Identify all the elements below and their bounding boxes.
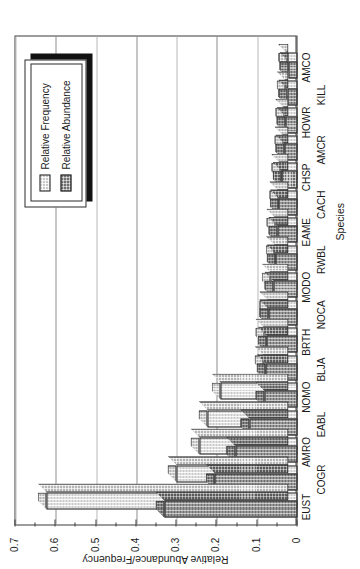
value-minor-tick <box>74 522 75 526</box>
value-tick <box>135 519 136 526</box>
category-label: NOMO <box>300 381 311 412</box>
value-minor-tick <box>236 522 237 526</box>
bar-side <box>167 456 288 465</box>
bar-side <box>266 208 288 217</box>
category-label: CACH <box>315 190 326 218</box>
bar-side <box>254 346 288 355</box>
value-axis-line <box>296 35 297 525</box>
bar-side <box>276 71 288 80</box>
category-label: RWBL <box>315 245 326 274</box>
value-minor-tick <box>195 522 196 526</box>
value-tick <box>95 519 96 526</box>
value-tick-label: 0 <box>291 537 302 543</box>
bar-side <box>274 126 288 135</box>
bar-side <box>278 44 288 53</box>
value-minor-tick <box>34 522 35 526</box>
legend-inner-border: Relative Frequency Relative Abundance <box>30 63 82 201</box>
bar-relative-abundance <box>164 500 297 517</box>
category-label: AMCR <box>315 135 326 164</box>
category-label: BLJA <box>315 357 326 381</box>
legend-swatch-relative-frequency <box>39 174 50 191</box>
category-label: COGR <box>315 464 326 494</box>
gridline <box>136 36 137 524</box>
category-label: EAME <box>300 218 311 246</box>
bar-side <box>211 373 288 382</box>
category-label: MODO <box>300 271 311 302</box>
category-label: AMRO <box>300 437 311 467</box>
legend-label-relative-frequency: Relative Frequency <box>39 83 50 169</box>
category-label: EABL <box>315 411 326 437</box>
category-label: KILL <box>315 84 326 105</box>
legend-item-relative-frequency[interactable]: Relative Frequency <box>39 83 50 191</box>
gridline <box>15 36 16 524</box>
category-label: BRTH <box>300 328 311 355</box>
bar-side <box>37 483 288 492</box>
category-label: EUST <box>300 493 311 520</box>
category-label: NOCA <box>315 300 326 329</box>
bar-side <box>155 491 288 500</box>
value-tick <box>215 519 216 526</box>
category-axis-title: Species <box>333 203 345 240</box>
bar-side <box>271 153 288 162</box>
value-tick <box>175 519 176 526</box>
category-label: HOWR <box>300 106 311 138</box>
bar-side <box>190 428 288 437</box>
value-minor-tick <box>276 522 277 526</box>
value-axis-title: Relative Abundance/Frequency <box>82 553 228 565</box>
legend-swatch-relative-abundance <box>60 174 71 191</box>
value-tick-label: 0.5 <box>89 537 100 552</box>
value-tick <box>14 519 15 526</box>
bar-side <box>259 291 288 300</box>
value-tick <box>296 519 297 526</box>
value-tick-label: 0.4 <box>129 537 140 552</box>
bar-top <box>198 410 207 427</box>
category-label: AMCO <box>300 52 311 82</box>
bar-side <box>255 318 288 327</box>
rotated-figure: 00.10.20.30.40.50.60.7 Relative Abundanc… <box>0 0 360 569</box>
category-label: CHSP <box>300 163 311 191</box>
legend-label-relative-abundance: Relative Abundance <box>60 80 71 169</box>
value-tick-label: 0.3 <box>170 537 181 552</box>
chart-canvas: 00.10.20.30.40.50.60.7 Relative Abundanc… <box>0 0 360 569</box>
bar-face <box>164 500 297 517</box>
bar-side <box>205 464 288 473</box>
bar-side <box>275 98 288 107</box>
gridline <box>96 36 97 524</box>
legend: Relative Frequency Relative Abundance <box>24 59 86 207</box>
bar-top <box>155 500 164 517</box>
bar-side <box>261 263 288 272</box>
bar-top <box>167 465 176 482</box>
value-tick-label: 0.6 <box>49 537 60 552</box>
value-tick <box>54 519 55 526</box>
value-tick-label: 0.1 <box>250 537 261 552</box>
bar-side <box>269 181 288 190</box>
value-minor-tick <box>155 522 156 526</box>
value-tick-label: 0.2 <box>210 537 221 552</box>
gridline <box>176 36 177 524</box>
bar-side <box>265 236 288 245</box>
bar-side <box>226 436 288 445</box>
bar-top <box>37 492 46 509</box>
value-tick-label: 0.7 <box>9 537 20 552</box>
bar-side <box>198 401 288 410</box>
value-tick <box>256 519 257 526</box>
value-minor-tick <box>115 522 116 526</box>
legend-item-relative-abundance[interactable]: Relative Abundance <box>60 80 71 191</box>
bar-top <box>190 437 199 454</box>
